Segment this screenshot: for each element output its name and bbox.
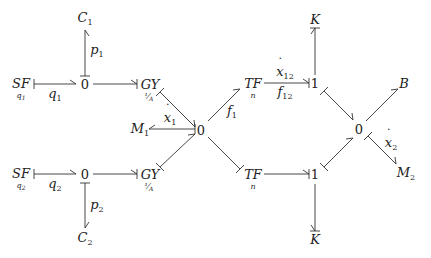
node-gy1: GY [141, 78, 160, 91]
node-m2: M2 [397, 166, 415, 182]
gy2-param: ¹⁄A [145, 182, 154, 193]
gy1-param: ¹⁄A [145, 92, 154, 103]
bond-label-f1: f1 [227, 104, 237, 120]
bond-label-x2-dot: x2 [385, 136, 397, 152]
bond-label-f12: f12 [278, 85, 293, 101]
node-k2: K [310, 233, 320, 246]
sf1-param: q1 [17, 91, 26, 102]
node-m1: M1 [131, 122, 149, 138]
node-zero-junction-1: 0 [81, 78, 89, 91]
node-zero-junction-3: 0 [197, 124, 205, 137]
node-zero-junction-2: 0 [81, 168, 89, 181]
node-k1: K [310, 13, 320, 26]
node-zero-junction-4: 0 [355, 123, 363, 136]
node-c1: C1 [77, 11, 92, 27]
node-sf1: SF [12, 77, 30, 90]
node-b: B [399, 77, 409, 90]
sf2-param: q2 [17, 181, 26, 192]
node-c2: C2 [77, 231, 92, 247]
node-tf2: TF [244, 168, 262, 181]
tf1-param: n [250, 91, 255, 100]
bond-label-q2: q2 [48, 177, 61, 193]
bond-lines [0, 0, 431, 258]
bond-graph-diagram: C1 SF q1 0 GY ¹⁄A M1 0 SF q2 0 GY ¹⁄A C2… [0, 0, 431, 258]
node-one-junction-1: 1 [311, 77, 319, 90]
node-one-junction-2: 1 [311, 168, 319, 181]
bond-label-x12-dot: x12 [276, 65, 294, 81]
bond-label-x1-dot: x1 [164, 111, 176, 127]
tf2-param: n [250, 182, 255, 191]
bond-label-p2: p2 [90, 198, 103, 214]
bond-label-p1: p1 [90, 43, 103, 59]
node-tf1: TF [244, 77, 262, 90]
node-sf2: SF [12, 167, 30, 180]
bond-label-q1: q1 [48, 87, 61, 103]
node-gy2: GY [141, 168, 160, 181]
